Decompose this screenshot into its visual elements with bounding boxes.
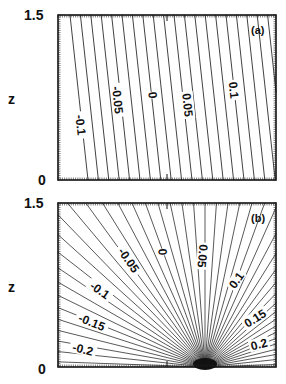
contour-line	[247, 15, 265, 180]
contour-line	[182, 203, 205, 367]
contour-figure: -0.1-0.0500.050.1 1.5 0 z (a) -0.2-0.15-…	[0, 0, 286, 384]
contour-label: 0.05	[179, 93, 195, 118]
contour-line	[103, 203, 205, 367]
plot-frame	[58, 15, 276, 180]
panel-b: -0.2-0.15-0.1-0.0500.050.10.150.2	[58, 203, 276, 370]
contour-line	[118, 203, 205, 367]
contour-label: 0	[145, 91, 160, 99]
contour-label: 0.05	[194, 244, 210, 269]
contour-label: -0.2	[71, 340, 95, 359]
contour-line	[194, 203, 205, 367]
contour-line	[70, 15, 88, 180]
contour-line	[268, 15, 276, 92]
contour-label: 0.1	[226, 269, 247, 291]
contour-label: 0.1	[226, 81, 242, 99]
panel-a-ylabel: z	[8, 91, 15, 107]
panel-b-label: (b)	[251, 212, 265, 224]
contour-line	[205, 15, 223, 180]
contour-label: -0.15	[77, 311, 108, 334]
panel-b-ylabel: z	[8, 279, 15, 295]
panel-b-ytick-bottom: 0	[38, 361, 46, 377]
contour-line	[195, 15, 213, 180]
contour-line	[257, 15, 275, 180]
contour-label: -0.05	[109, 86, 126, 115]
contour-label: 0	[155, 248, 170, 256]
panel-a-label: (a)	[251, 24, 265, 36]
contour-label: -0.1	[72, 114, 88, 136]
panel-a-ytick-bottom: 0	[38, 172, 46, 188]
contour-line	[205, 203, 216, 367]
contour-line	[205, 203, 228, 367]
contour-line	[80, 15, 98, 180]
contour-line	[205, 282, 276, 367]
panel-a-ytick-top: 1.5	[24, 7, 44, 23]
panel-a: -0.1-0.0500.050.1	[58, 15, 276, 180]
contour-line	[164, 15, 182, 180]
panel-b-ytick-top: 1.5	[24, 195, 44, 211]
contour-line	[91, 15, 109, 180]
focus-point	[193, 358, 217, 370]
